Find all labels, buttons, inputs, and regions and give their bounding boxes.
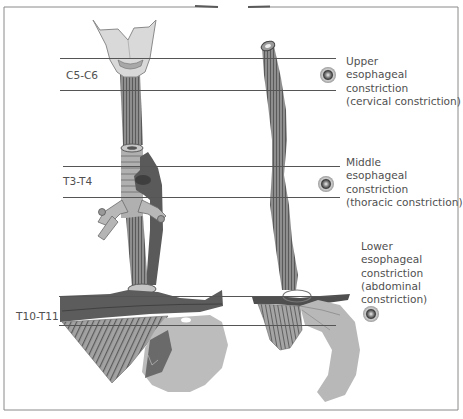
target-circle-icon [320,67,336,83]
lateral-view [252,39,360,402]
esophagus-thoracic [126,216,148,288]
target-circle-icon [363,306,379,322]
fundus-fan [258,304,302,350]
larynx-cartilage [93,20,156,77]
esophagus-lateral [262,46,298,290]
level-label-middle: T3-T4 [63,175,92,187]
constriction-label-middle: Middle esophageal constriction (thoracic… [346,156,463,209]
target-circle-icon [318,176,334,192]
level-label-upper: C5-C6 [66,69,98,81]
esophagus-cervical [120,74,143,145]
constriction-label-upper: Upper esophageal constriction (cervical … [346,55,461,108]
constriction-label-lower: Lower esophageal constriction (abdominal… [361,240,427,306]
level-label-lower: T10-T11 [16,310,59,322]
guide-lines [59,59,340,326]
